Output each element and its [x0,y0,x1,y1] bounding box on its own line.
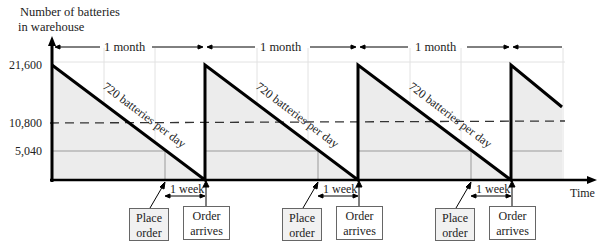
order-arrives-box-1: Order arrives [183,206,230,240]
place-order-box-1: Place order [129,208,169,241]
place-order-text: order [134,226,164,241]
y-tick-21600: 21,600 [2,58,42,73]
y-tick-10800: 10,800 [2,116,42,131]
order-arrives-text: arrives [188,224,225,239]
order-arrives-box-3: Order arrives [489,206,536,240]
period-label-2: 1 month [260,40,301,54]
place-order-text: Place [440,211,470,226]
order-arrives-box-2: Order arrives [336,206,383,240]
y-axis-title-line1: Number of batteries [20,5,120,19]
place-order-box-2: Place order [282,208,322,241]
order-arrives-text: arrives [494,224,531,239]
place-order-text: order [287,226,317,241]
y-axis-title-line2: in warehouse [18,20,84,34]
place-order-box-3: Place order [435,208,475,241]
order-arrives-text: arrives [341,224,378,239]
y-tick-5040: 5,040 [2,144,42,159]
lead-time-label-1: 1 week [170,182,204,196]
order-arrives-text: Order [188,209,225,224]
x-axis-title: Time [570,186,595,200]
order-arrives-text: Order [494,209,531,224]
place-order-text: order [440,226,470,241]
place-order-text: Place [287,211,317,226]
place-order-text: Place [134,211,164,226]
period-label-1: 1 month [104,40,145,54]
lead-time-label-2: 1 week [323,182,357,196]
period-label-3: 1 month [415,40,456,54]
order-arrives-text: Order [341,209,378,224]
lead-time-label-3: 1 week [476,182,510,196]
